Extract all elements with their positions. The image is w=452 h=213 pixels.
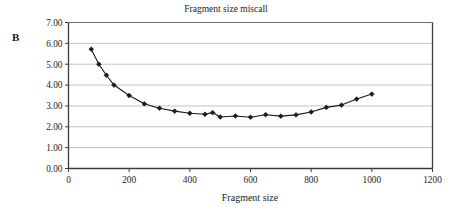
y-axis-tick-label: 6.00 [46,39,63,49]
x-axis-tick-label: 200 [122,175,136,185]
data-point-marker [210,110,215,115]
line-chart: 0.001.002.003.004.005.006.007.00 0200400… [0,0,452,213]
y-axis-tick-label: 1.00 [46,143,63,153]
y-axis-tick-label: 2.00 [46,122,63,132]
x-axis-tick-label: 0 [66,175,71,185]
y-axis-tick-label: 0.00 [46,164,63,174]
data-point-marker [187,111,192,116]
axis-frame [69,23,433,169]
x-axis-tick-label: 1000 [363,175,382,185]
data-point-marker [203,112,208,117]
data-point-marker [89,47,94,52]
gridlines-group [69,43,433,147]
data-point-marker [263,112,268,117]
data-point-marker [294,112,299,117]
series-line [91,49,372,117]
data-point-marker [157,106,162,111]
x-axis-tick-label: 600 [244,175,258,185]
data-point-marker [309,110,314,115]
x-axis-ticks-group: 020040060080010001200 [66,169,442,185]
y-axis-tick-label: 4.00 [46,80,63,90]
data-point-marker [339,103,344,108]
data-point-marker [172,109,177,114]
data-point-marker [354,97,359,102]
data-point-marker [218,115,223,120]
figure-panel-b: B Fragment size miscall 0.001.002.003.00… [0,0,452,213]
data-point-marker [248,115,253,120]
data-point-marker [278,114,283,119]
x-axis-tick-label: 400 [183,175,197,185]
x-axis-title: Fragment size [68,192,432,203]
y-axis-tick-label: 3.00 [46,101,63,111]
x-axis-tick-label: 1200 [423,175,442,185]
x-axis-tick-label: 800 [304,175,318,185]
data-point-marker [369,92,374,97]
data-point-marker [233,114,238,119]
y-axis-ticks-group: 0.001.002.003.004.005.006.007.00 [46,18,68,174]
data-series-group [89,47,374,120]
y-axis-tick-label: 7.00 [46,18,63,28]
data-point-marker [142,101,147,106]
y-axis-tick-label: 5.00 [46,60,63,70]
